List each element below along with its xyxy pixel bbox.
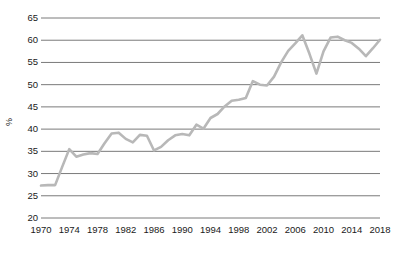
x-tick-label: 2018 [365, 224, 395, 235]
y-tick-label: 25 [8, 191, 38, 201]
x-tick-label: 2014 [337, 224, 367, 235]
x-tick-label: 1982 [111, 224, 141, 235]
x-tick-label: 2010 [309, 224, 339, 235]
x-tick-label: 2006 [280, 224, 310, 235]
data-series-line [41, 35, 380, 185]
y-tick-value: 35 [8, 146, 38, 156]
x-tick-label: 1998 [224, 224, 254, 235]
y-tick-label: 55 [8, 57, 38, 67]
y-tick-value: 50 [8, 80, 38, 90]
x-tick-label: 1986 [139, 224, 169, 235]
y-tick-label: 30 [8, 169, 38, 179]
y-tick-value: 45 [8, 102, 38, 112]
y-tick-label: 45 [8, 102, 38, 112]
x-tick-label: 1978 [83, 224, 113, 235]
x-tick-label: 1994 [196, 224, 226, 235]
x-tick-label: 1974 [54, 224, 84, 235]
y-tick-label: 65 [8, 13, 38, 23]
x-tick-label: 1970 [26, 224, 56, 235]
y-tick-value: 40 [8, 124, 38, 134]
y-tick-label: 35 [8, 146, 38, 156]
y-tick-label: 20 [8, 213, 38, 223]
x-tick-label: 2002 [252, 224, 282, 235]
y-tick-label: 40 [8, 124, 38, 134]
y-tick-value: 55 [8, 57, 38, 67]
x-tick-label: 1990 [167, 224, 197, 235]
y-tick-label: 60 [8, 35, 38, 45]
y-tick-value: 25 [8, 191, 38, 201]
y-tick-value: 60 [8, 35, 38, 45]
y-tick-value: 30 [8, 169, 38, 179]
y-tick-value: 20 [8, 213, 38, 223]
y-tick-value: 65 [8, 13, 38, 23]
y-tick-label: 50 [8, 80, 38, 90]
